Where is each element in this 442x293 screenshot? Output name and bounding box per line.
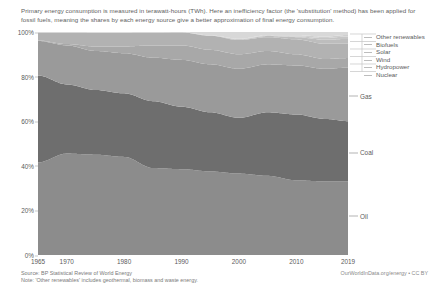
series-label-leader-line bbox=[349, 152, 358, 153]
legend-item-label: Solar bbox=[376, 48, 390, 55]
legend-item-hydropower[interactable]: Hydropower bbox=[376, 63, 425, 71]
other-renewables-note: Note: 'Other renewables' includes geothe… bbox=[21, 277, 198, 284]
series-label-leader-line bbox=[349, 96, 358, 97]
y-tick-label: 60% bbox=[21, 118, 38, 125]
legend-connector bbox=[364, 60, 372, 61]
legend-item-label: Other renewables bbox=[376, 33, 425, 40]
legend-connector bbox=[364, 37, 372, 38]
legend-item-nuclear[interactable]: Nuclear bbox=[376, 71, 425, 79]
legend-connector bbox=[364, 44, 372, 45]
x-tick-label: 2019 bbox=[341, 258, 355, 265]
series-label-leader-line bbox=[349, 216, 358, 217]
y-tick-mark bbox=[35, 32, 38, 33]
chart-subtitle: Primary energy consumption is measured i… bbox=[21, 7, 425, 24]
y-tick-label: 40% bbox=[21, 162, 38, 169]
series-label-gas: Gas bbox=[360, 92, 372, 99]
y-tick-label: 100% bbox=[18, 29, 38, 36]
legend-item-wind[interactable]: Wind bbox=[376, 56, 425, 64]
y-tick-mark bbox=[35, 210, 38, 211]
plot-area: 0%20%40%60%80%100% 196519701980199020002… bbox=[38, 32, 348, 255]
y-tick-mark bbox=[35, 121, 38, 122]
legend-connector bbox=[364, 75, 372, 76]
x-tick-label: 2000 bbox=[232, 258, 246, 265]
series-label-coal: Coal bbox=[360, 149, 373, 156]
x-tick-label: 1990 bbox=[174, 258, 188, 265]
y-tick-mark bbox=[35, 166, 38, 167]
legend-item-other-renewables[interactable]: Other renewables bbox=[376, 33, 425, 41]
legend-connector bbox=[364, 52, 372, 53]
stacked-area-series bbox=[38, 32, 348, 255]
y-tick-mark bbox=[35, 255, 38, 256]
y-tick-label: 20% bbox=[21, 207, 38, 214]
legend: Other renewablesBiofuelsSolarWindHydropo… bbox=[376, 33, 425, 79]
legend-item-biofuels[interactable]: Biofuels bbox=[376, 41, 425, 49]
chart-page: Primary energy consumption is measured i… bbox=[0, 0, 442, 293]
y-tick-label: 80% bbox=[21, 73, 38, 80]
legend-item-label: Nuclear bbox=[376, 71, 397, 78]
series-label-oil: Oil bbox=[360, 212, 368, 219]
x-tick-label: 1965 bbox=[31, 258, 45, 265]
legend-bracket bbox=[350, 34, 376, 72]
legend-item-label: Wind bbox=[376, 56, 390, 63]
source-note: Source: BP Statistical Review of World E… bbox=[21, 270, 198, 277]
legend-item-solar[interactable]: Solar bbox=[376, 48, 425, 56]
legend-connector-lines bbox=[348, 30, 378, 86]
x-tick-label: 2010 bbox=[289, 258, 303, 265]
x-tick-label: 1970 bbox=[60, 258, 74, 265]
legend-item-label: Biofuels bbox=[376, 41, 398, 48]
attribution: OurWorldInData.org/energy • CC BY bbox=[341, 270, 428, 276]
y-tick-mark bbox=[35, 77, 38, 78]
legend-item-label: Hydropower bbox=[376, 63, 409, 70]
x-tick-label: 1980 bbox=[117, 258, 131, 265]
footer: Source: BP Statistical Review of World E… bbox=[21, 270, 198, 285]
legend-connector bbox=[364, 67, 372, 68]
